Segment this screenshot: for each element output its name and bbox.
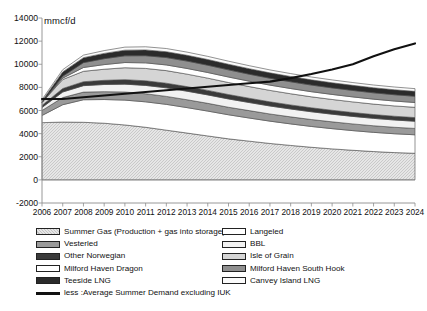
legend-item[interactable]: Vesterled	[36, 238, 231, 250]
chart-legend: Summer Gas (Production + gas into storag…	[0, 226, 427, 311]
x-tick-label: 2012	[157, 207, 175, 217]
y-axis-unit-label: mmcf/d	[44, 15, 76, 26]
y-tick-label: 8000	[4, 82, 38, 92]
legend-item-label: Vesterled	[64, 240, 98, 248]
legend-item[interactable]: Teeside LNG	[36, 275, 231, 287]
legend-swatch-icon	[36, 253, 60, 260]
legend-item-label: Milford Haven South Hook	[250, 265, 344, 273]
legend-item-label: Milford Haven Dragon	[64, 265, 143, 273]
legend-swatch-icon	[36, 228, 60, 235]
legend-item[interactable]: Canvey Island LNG	[222, 275, 344, 287]
legend-swatch-icon	[222, 265, 246, 272]
legend-item[interactable]: Isle of Grain	[222, 251, 344, 263]
legend-item-label: Other Norwegian	[64, 252, 125, 260]
y-tick-label: 2000	[4, 152, 38, 162]
legend-item-label: Teeside LNG	[64, 277, 111, 285]
x-tick-label: 2007	[53, 207, 71, 217]
x-tick-label: 2010	[116, 207, 134, 217]
legend-item-label: Langeled	[250, 228, 283, 236]
x-axis-ticks: 2006200720082009201020112012201320142015…	[0, 203, 427, 223]
y-axis-ticks: -200002000400060008000100001200014000	[0, 0, 38, 222]
x-tick-label: 2015	[219, 207, 237, 217]
legend-swatch-icon	[222, 253, 246, 260]
y-tick-label: 0	[4, 175, 38, 185]
legend-item[interactable]: Milford Haven South Hook	[222, 263, 344, 275]
x-tick-label: 2008	[74, 207, 92, 217]
x-tick-label: 2017	[261, 207, 279, 217]
legend-swatch-icon	[222, 241, 246, 248]
legend-swatch-icon	[36, 241, 60, 248]
x-tick-label: 2009	[95, 207, 113, 217]
legend-swatch-icon	[36, 277, 60, 284]
legend-swatch-icon	[36, 292, 60, 295]
legend-swatch-icon	[222, 228, 246, 235]
legend-item[interactable]: Milford Haven Dragon	[36, 263, 231, 275]
y-tick-label: 12000	[4, 36, 38, 46]
y-tick-label: 4000	[4, 129, 38, 139]
y-tick-label: 14000	[4, 13, 38, 23]
x-tick-label: 2013	[178, 207, 196, 217]
y-tick-label: 10000	[4, 59, 38, 69]
x-tick-label: 2019	[302, 207, 320, 217]
y-tick-label: 6000	[4, 106, 38, 116]
legend-item-label: Canvey Island LNG	[250, 277, 320, 285]
legend-item-label: Summer Gas (Production + gas into storag…	[64, 228, 225, 236]
x-tick-label: 2018	[281, 207, 299, 217]
x-tick-label: 2023	[385, 207, 403, 217]
legend-column-right: LangeledBBLIsle of GrainMilford Haven So…	[222, 226, 344, 287]
x-tick-label: 2024	[406, 207, 424, 217]
legend-item-label: less :Average Summer Demand excluding IU…	[64, 289, 231, 297]
legend-item[interactable]: less :Average Summer Demand excluding IU…	[36, 287, 231, 299]
legend-swatch-icon	[222, 277, 246, 284]
legend-swatch-icon	[36, 265, 60, 272]
legend-item[interactable]: Other Norwegian	[36, 251, 231, 263]
legend-item-label: BBL	[250, 240, 265, 248]
stacked-area-chart	[0, 0, 427, 222]
legend-item[interactable]: Summer Gas (Production + gas into storag…	[36, 226, 231, 238]
x-tick-label: 2014	[199, 207, 217, 217]
chart-plot-area	[0, 0, 427, 222]
legend-item[interactable]: BBL	[222, 238, 344, 250]
x-tick-label: 2020	[323, 207, 341, 217]
legend-item[interactable]: Langeled	[222, 226, 344, 238]
legend-item-label: Isle of Grain	[250, 252, 294, 260]
legend-column-left: Summer Gas (Production + gas into storag…	[36, 226, 231, 300]
x-tick-label: 2022	[364, 207, 382, 217]
x-tick-label: 2021	[344, 207, 362, 217]
x-tick-label: 2016	[240, 207, 258, 217]
x-tick-label: 2006	[33, 207, 51, 217]
chart-page: mmcf/d -20000200040006000800010000120001…	[0, 0, 427, 311]
x-tick-label: 2011	[137, 207, 155, 217]
